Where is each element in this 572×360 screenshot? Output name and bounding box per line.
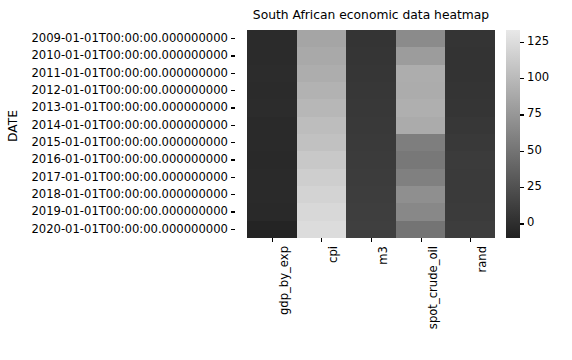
heatmap-cell xyxy=(396,82,446,99)
colorbar-tick-mark xyxy=(520,151,524,152)
y-tick-label: 2019-01-01T00:00:00.000000000 xyxy=(31,206,228,218)
heatmap-cell xyxy=(396,151,446,168)
y-tick-mark xyxy=(231,229,235,230)
heatmap-cell xyxy=(247,134,297,151)
y-tick-label: 2014-01-01T00:00:00.000000000 xyxy=(31,119,228,131)
heatmap-cell xyxy=(297,117,347,134)
heatmap-cell xyxy=(247,99,297,116)
y-tick-mark xyxy=(231,55,235,56)
colorbar-gradient xyxy=(506,30,520,238)
heatmap-cell xyxy=(445,117,495,134)
x-tick-mark xyxy=(421,238,422,242)
heatmap-cell xyxy=(445,203,495,220)
y-tick-mark xyxy=(231,194,235,195)
colorbar: 0255075100125 xyxy=(506,30,520,238)
colorbar-tick-mark xyxy=(520,187,524,188)
colorbar-tick-mark xyxy=(520,42,524,43)
heatmap-cell xyxy=(445,47,495,64)
heatmap-cell xyxy=(247,151,297,168)
heatmap-cell xyxy=(297,186,347,203)
heatmap-cell xyxy=(346,47,396,64)
heatmap-cell xyxy=(247,117,297,134)
heatmap-cell xyxy=(247,82,297,99)
heatmap-cell xyxy=(445,186,495,203)
heatmap-cell xyxy=(396,134,446,151)
heatmap-cell xyxy=(445,221,495,238)
heatmap-cell xyxy=(445,82,495,99)
heatmap-cell xyxy=(396,169,446,186)
heatmap-cell xyxy=(247,221,297,238)
colorbar-tick-mark xyxy=(520,223,524,224)
x-tick-label: spot_crude_oil xyxy=(426,246,440,329)
heatmap-cell xyxy=(396,186,446,203)
chart-title: South African economic data heatmap xyxy=(247,8,495,23)
x-tick-label: gdp_by_exp xyxy=(277,246,291,315)
colorbar-tick-label: 125 xyxy=(527,36,549,48)
heatmap-cell xyxy=(247,186,297,203)
heatmap-cell xyxy=(297,169,347,186)
x-tick-mark xyxy=(321,238,322,242)
y-tick-label: 2009-01-01T00:00:00.000000000 xyxy=(31,32,228,44)
x-tick-mark xyxy=(272,238,273,242)
x-tick-label: m3 xyxy=(376,246,390,265)
heatmap-cell xyxy=(346,203,396,220)
heatmap-cell xyxy=(346,186,396,203)
y-tick-label: 2017-01-01T00:00:00.000000000 xyxy=(31,171,228,183)
heatmap-cell xyxy=(346,151,396,168)
heatmap-cell xyxy=(247,169,297,186)
y-tick-mark xyxy=(231,177,235,178)
x-tick-label: cpi xyxy=(326,246,340,263)
colorbar-tick-label: 50 xyxy=(527,145,542,157)
heatmap-cell xyxy=(445,134,495,151)
y-tick-label: 2012-01-01T00:00:00.000000000 xyxy=(31,84,228,96)
heatmap-cell xyxy=(346,65,396,82)
y-tick-mark xyxy=(231,125,235,126)
heatmap-cell xyxy=(247,65,297,82)
heatmap-cell xyxy=(396,117,446,134)
colorbar-tick-label: 100 xyxy=(527,72,549,84)
colorbar-tick-mark xyxy=(520,78,524,79)
y-tick-mark xyxy=(231,107,235,108)
y-tick-label: 2013-01-01T00:00:00.000000000 xyxy=(31,102,228,114)
heatmap-cell xyxy=(346,169,396,186)
heatmap-cell xyxy=(396,30,446,47)
x-axis-tickmarks xyxy=(247,238,495,246)
x-axis-ticklabels: gdp_by_expcpim3spot_crude_oilrand xyxy=(247,246,495,356)
heatmap-cell xyxy=(346,117,396,134)
heatmap-cell xyxy=(297,82,347,99)
y-tick-mark xyxy=(231,159,235,160)
heatmap-cell xyxy=(445,30,495,47)
heatmap-cell xyxy=(396,99,446,116)
heatmap-cell xyxy=(346,82,396,99)
x-tick-mark xyxy=(470,238,471,242)
colorbar-tick-label: 25 xyxy=(527,181,542,193)
y-axis-ticklabels: 2009-01-01T00:00:00.0000000002010-01-01T… xyxy=(0,30,240,238)
heatmap-cell xyxy=(396,47,446,64)
y-tick-label: 2011-01-01T00:00:00.000000000 xyxy=(31,67,228,79)
heatmap-cell xyxy=(297,99,347,116)
heatmap-cell xyxy=(445,65,495,82)
heatmap-cell xyxy=(297,134,347,151)
heatmap-cell xyxy=(396,65,446,82)
y-tick-mark xyxy=(231,90,235,91)
heatmap-cell xyxy=(346,99,396,116)
heatmap-cell xyxy=(445,99,495,116)
heatmap-cell xyxy=(247,30,297,47)
y-tick-label: 2010-01-01T00:00:00.000000000 xyxy=(31,50,228,62)
heatmap-cell xyxy=(396,203,446,220)
colorbar-tick-label: 75 xyxy=(527,108,542,120)
y-tick-mark xyxy=(231,142,235,143)
y-tick-mark xyxy=(231,38,235,39)
heatmap-grid xyxy=(247,30,495,238)
y-tick-label: 2018-01-01T00:00:00.000000000 xyxy=(31,188,228,200)
y-tick-mark xyxy=(231,73,235,74)
heatmap-cell xyxy=(297,65,347,82)
heatmap-cell xyxy=(297,47,347,64)
heatmap-cell xyxy=(445,169,495,186)
heatmap-cell xyxy=(396,221,446,238)
y-tick-label: 2016-01-01T00:00:00.000000000 xyxy=(31,154,228,166)
x-tick-label: rand xyxy=(475,246,489,273)
y-tick-label: 2020-01-01T00:00:00.000000000 xyxy=(31,223,228,235)
y-tick-label: 2015-01-01T00:00:00.000000000 xyxy=(31,136,228,148)
heatmap-cell xyxy=(247,47,297,64)
